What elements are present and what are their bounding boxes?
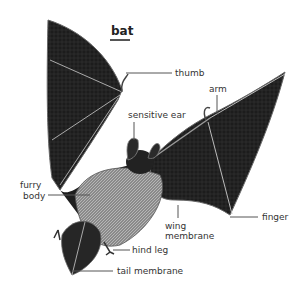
label-thumb: thumb: [175, 68, 204, 78]
label-wing-membrane-line1: wing: [165, 221, 186, 231]
label-hind-leg: hind leg: [132, 245, 168, 255]
bat-diagram: bat thumb arm sensitive ear furry body w…: [0, 0, 303, 295]
left-foot: [54, 230, 60, 240]
label-sensitive-ear: sensitive ear: [128, 110, 186, 120]
diagram-title: bat: [111, 24, 133, 38]
label-finger: finger: [262, 212, 288, 222]
left-thumb-claw: [122, 74, 128, 92]
tail-membrane-shape: [62, 221, 101, 275]
title-underline: [110, 39, 130, 41]
left-wing: [47, 20, 122, 190]
label-furry-body-line1: furry: [20, 180, 41, 190]
label-arm: arm: [209, 84, 227, 94]
label-tail-membrane: tail membrane: [117, 266, 183, 276]
label-furry-body-line2: body: [23, 191, 45, 201]
label-wing-membrane-line2: membrane: [165, 231, 214, 241]
